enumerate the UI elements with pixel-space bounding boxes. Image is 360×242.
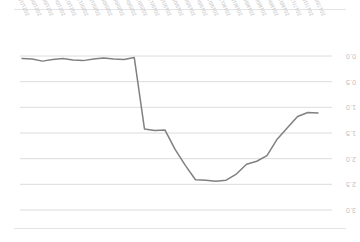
y-tick-label: 2.0	[346, 156, 356, 163]
y-tick-label: 2.5	[346, 181, 356, 188]
chart-canvas	[0, 0, 360, 242]
y-tick-label: 1.5	[346, 130, 356, 137]
line-chart: 0.00.51.01.52.02.53.0 2021/102021/082021…	[0, 0, 360, 242]
y-tick-label: 0.5	[346, 79, 356, 86]
y-tick-label: 0.0	[346, 53, 356, 60]
y-tick-label: 1.0	[346, 104, 356, 111]
data-series-line	[22, 58, 318, 182]
y-tick-label: 3.0	[346, 207, 356, 214]
gridline-group	[20, 56, 332, 210]
